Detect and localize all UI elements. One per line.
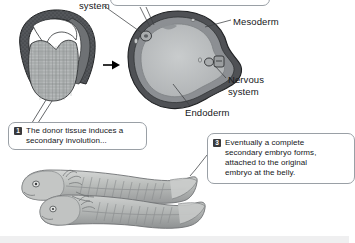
callout-1-badge: 1	[14, 127, 22, 135]
callout-1-line-2: secondary involution...	[26, 136, 107, 146]
label-nervous-system-right-line1: Nervous	[228, 74, 264, 85]
label-endoderm: Endoderm	[185, 107, 230, 118]
gastrula-cross-section	[20, 10, 95, 126]
neurula-cross-section	[104, 6, 242, 109]
callout-3-line-3: attached to the original	[225, 158, 307, 168]
process-arrow	[103, 61, 120, 70]
callout-3-line-2: secondary embryo forms,	[225, 148, 316, 158]
callout-3-line-1: Eventually a complete	[225, 138, 304, 148]
conjoined-tadpole-embryos	[22, 170, 205, 228]
label-nervous-system-right-line2: system	[228, 86, 259, 97]
callout-3-badge: 3	[213, 139, 221, 147]
label-mesoderm: Mesoderm	[233, 16, 279, 27]
callout-3-line-4: embryo at the belly.	[225, 168, 295, 178]
bottom-edge-band	[0, 236, 349, 243]
label-nervous-system-top: system	[79, 0, 110, 11]
callout-top-cropped	[110, 0, 270, 6]
callout-3-leader	[190, 155, 207, 176]
callout-1-line-1: The donor tissue induces a	[26, 126, 123, 136]
